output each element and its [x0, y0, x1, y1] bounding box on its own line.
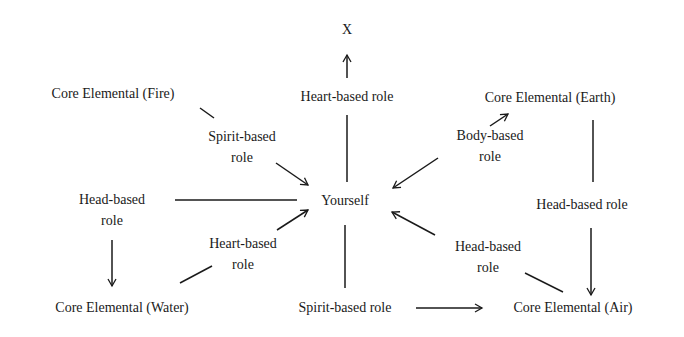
edge-water-heart [180, 266, 212, 283]
node-heart-top: Heart-based role [301, 86, 394, 107]
node-head-left-line1: Head-based [79, 189, 145, 210]
node-head-left-line2: role [79, 210, 145, 231]
edge-heart-yourself [277, 210, 308, 230]
node-heart-left-line2: role [209, 254, 277, 275]
diagram-connectors [0, 0, 684, 337]
node-heart-left: Heart-based role [209, 233, 277, 275]
node-head-lower-right-line2: role [455, 257, 521, 278]
node-body-line2: role [457, 146, 524, 167]
diagram-canvas: X Heart-based role Core Elemental (Fire)… [0, 0, 684, 337]
node-head-lower-right-line1: Head-based [455, 236, 521, 257]
node-spirit-left-line1: Spirit-based [208, 126, 276, 147]
node-yourself: Yourself [321, 190, 369, 211]
edge-body-yourself [393, 158, 438, 188]
edge-air-head [525, 273, 563, 292]
node-head-left: Head-based role [79, 189, 145, 231]
node-x: X [342, 19, 352, 40]
node-head-right: Head-based role [536, 194, 627, 215]
node-heart-left-line1: Heart-based [209, 233, 277, 254]
node-body: Body-based role [457, 125, 524, 167]
node-body-line1: Body-based [457, 125, 524, 146]
node-spirit-left-line2: role [208, 147, 276, 168]
node-core-earth: Core Elemental (Earth) [485, 87, 616, 108]
node-head-lower-right: Head-based role [455, 236, 521, 278]
node-core-fire: Core Elemental (Fire) [52, 83, 175, 104]
node-core-air: Core Elemental (Air) [514, 297, 633, 318]
node-core-water: Core Elemental (Water) [55, 297, 188, 318]
edge-fire-spirit [200, 108, 214, 118]
edge-head-yourself [392, 212, 435, 235]
edge-spirit-yourself [276, 163, 308, 185]
node-spirit-left: Spirit-based role [208, 126, 276, 168]
node-spirit-bottom: Spirit-based role [299, 297, 392, 318]
